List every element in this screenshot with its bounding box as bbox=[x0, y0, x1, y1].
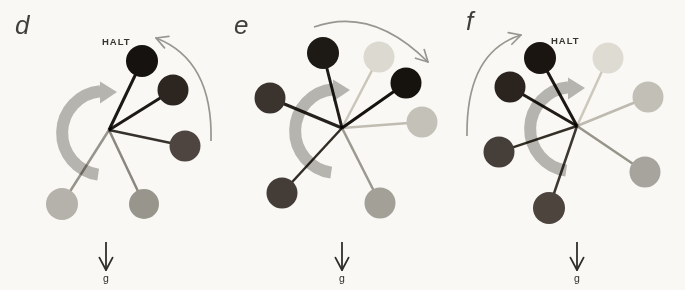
panel-f bbox=[467, 33, 664, 270]
arrowhead-stroke bbox=[570, 258, 577, 270]
arrowhead-stroke bbox=[342, 258, 349, 270]
panel-e bbox=[255, 21, 438, 270]
weight-ball bbox=[391, 68, 422, 99]
weight-ball bbox=[533, 192, 565, 224]
arrowhead-stroke bbox=[335, 258, 342, 270]
rotation-arrow-icon bbox=[62, 91, 100, 174]
weight-ball bbox=[255, 83, 286, 114]
weight-ball bbox=[129, 189, 159, 219]
halt-label-panel-d: HALT bbox=[102, 36, 131, 47]
gravity-label-panel-e: g bbox=[339, 272, 345, 284]
rotation-arrowhead-icon bbox=[568, 78, 585, 100]
rotation-arrow-icon bbox=[295, 89, 333, 172]
arrowhead-stroke bbox=[156, 36, 169, 38]
overbalanced-wheel-figure: d e f HALT HALT g g g bbox=[0, 0, 685, 290]
rotation-arrowhead-icon bbox=[100, 82, 117, 104]
weight-ball bbox=[365, 188, 396, 219]
halt-label-panel-f: HALT bbox=[551, 35, 580, 46]
weight-ball bbox=[267, 178, 298, 209]
weight-ball bbox=[630, 157, 661, 188]
weight-ball bbox=[126, 45, 158, 77]
arrowhead-stroke bbox=[106, 258, 113, 270]
weight-ball bbox=[407, 107, 438, 138]
panel-label-e: e bbox=[234, 12, 248, 38]
weight-ball bbox=[158, 75, 189, 106]
arrowhead-stroke bbox=[508, 33, 521, 35]
arrowhead-stroke bbox=[99, 258, 106, 270]
gravity-label-panel-f: g bbox=[574, 272, 580, 284]
gravity-label-panel-d: g bbox=[103, 272, 109, 284]
panel-d bbox=[46, 36, 211, 270]
panel-label-f: f bbox=[466, 8, 473, 34]
weight-ball bbox=[46, 188, 78, 220]
panel-label-d: d bbox=[15, 12, 29, 38]
weight-ball bbox=[495, 72, 526, 103]
weight-ball bbox=[593, 43, 624, 74]
weight-ball bbox=[364, 42, 395, 73]
weight-ball bbox=[484, 137, 515, 168]
weight-ball bbox=[170, 131, 201, 162]
weight-ball bbox=[633, 82, 664, 113]
weight-ball bbox=[307, 37, 339, 69]
weight-ball bbox=[524, 42, 556, 74]
arrowhead-stroke bbox=[577, 258, 584, 270]
